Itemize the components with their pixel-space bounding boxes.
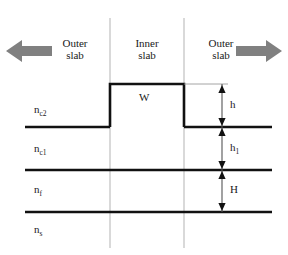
n-f-symbol: n: [34, 183, 40, 195]
dimension-H-symbol: H: [230, 183, 238, 195]
refractive-index-n-f: nf: [34, 184, 42, 196]
n-f-subscript: f: [40, 189, 43, 198]
arrowhead-h1-top: [218, 128, 225, 136]
dimension-label-h1: h1: [230, 142, 239, 154]
dimension-label-H: H: [230, 184, 238, 196]
region-label-inner-line1: Inner: [135, 37, 158, 49]
arrowhead-H-top: [218, 171, 225, 179]
dimension-h-symbol: h: [230, 98, 236, 110]
n-c2-subscript: c2: [40, 109, 47, 118]
refractive-index-n-s: ns: [34, 224, 42, 236]
slab-waveguide-figure: Outer slab Inner slab Outer slab W nc2 n…: [0, 0, 288, 255]
arrowhead-h-bottom: [218, 118, 225, 126]
dimension-h1-symbol: h: [230, 141, 236, 153]
region-label-outer-right-line2: slab: [184, 50, 258, 62]
region-label-outer-left: Outer slab: [38, 38, 112, 62]
n-c1-symbol: n: [34, 142, 40, 154]
rib-width-label: W: [139, 92, 149, 104]
refractive-index-n-c1: nc1: [34, 143, 47, 155]
dimension-label-h: h: [230, 99, 236, 111]
n-s-symbol: n: [34, 223, 40, 235]
refractive-index-n-c2: nc2: [34, 104, 47, 116]
n-c1-subscript: c1: [40, 148, 47, 157]
region-label-outer-right-line1: Outer: [208, 37, 233, 49]
region-label-inner: Inner slab: [110, 38, 184, 62]
arrowhead-H-bottom: [218, 203, 225, 211]
arrowhead-h1-bottom: [218, 161, 225, 169]
n-c2-symbol: n: [34, 103, 40, 115]
n-s-subscript: s: [40, 229, 43, 238]
region-label-inner-line2: slab: [110, 50, 184, 62]
arrowhead-h-top: [218, 85, 225, 93]
dimension-h1-subscript: 1: [236, 147, 240, 156]
region-label-outer-left-line1: Outer: [62, 37, 87, 49]
region-label-outer-right: Outer slab: [184, 38, 258, 62]
region-label-outer-left-line2: slab: [38, 50, 112, 62]
